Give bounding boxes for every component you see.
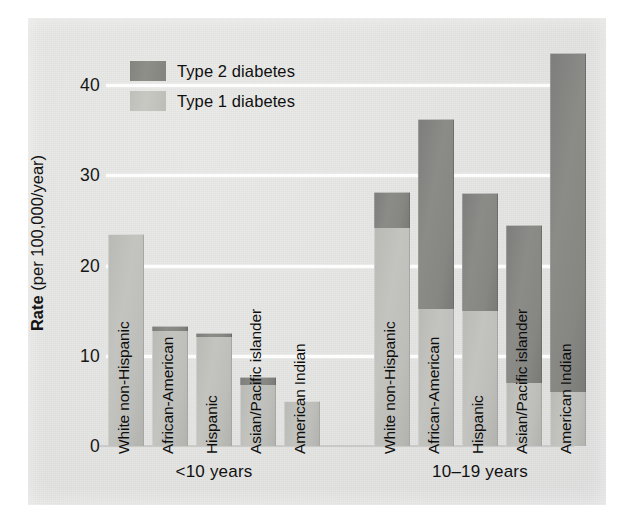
bar-category-label: White non-Hispanic [115,321,133,454]
y-tick-label-20: 20 [80,255,100,276]
y-tick-label-10: 10 [80,345,100,366]
y-axis-title: Rate (per 100,000/year) [22,40,52,446]
legend-label-type2: Type 2 diabetes [177,62,295,81]
group-label-0: <10 years [119,462,309,482]
legend-item-type1: Type 1 diabetes [130,86,320,116]
bar-segment-type2 [196,333,232,337]
gridline-30 [106,174,572,177]
y-axis-title-bold: Rate [28,295,46,331]
y-axis-ticks: 010203040 [56,40,100,446]
gridline-20 [106,265,572,268]
group-label-1: 10–19 years [385,462,575,482]
y-tick-label-30: 30 [80,165,100,186]
chart-figure: Rate (per 100,000/year) 010203040 White … [0,0,629,521]
y-axis-title-rest: (per 100,000/year) [28,155,46,295]
legend-item-type2: Type 2 diabetes [130,56,320,86]
bar-category-label: American Indian [291,343,309,454]
chart-legend: Type 2 diabetesType 1 diabetes [130,56,320,116]
bar-segment-type2 [152,326,188,331]
bar-segment-type2 [550,53,586,392]
bar-category-label: African-American [425,337,443,454]
y-tick-label-40: 40 [80,75,100,96]
bar-category-label: American Indian [557,343,575,454]
bar-segment-type2 [462,193,498,310]
bar-category-label: Hispanic [469,395,487,454]
bar-category-label: Hispanic [203,395,221,454]
bar-category-label: Asian/Pacific islander [513,309,531,454]
bar-category-label: African-American [159,337,177,454]
bar-segment-type2 [374,192,410,228]
legend-swatch-type1 [130,91,166,111]
bar-category-label: White non-Hispanic [381,321,399,454]
bar-segment-type2 [418,119,454,308]
legend-swatch-type2 [130,61,166,81]
bar-category-label: Asian/Pacific islander [247,309,265,454]
legend-label-type1: Type 1 diabetes [177,92,295,111]
y-tick-label-0: 0 [90,436,100,457]
